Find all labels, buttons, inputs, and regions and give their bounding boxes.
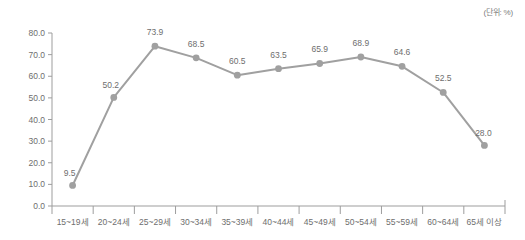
y-tick-label: 20.0 <box>28 158 45 168</box>
line-chart: 0.010.020.030.040.050.060.070.080.0 9.55… <box>0 0 525 240</box>
data-value-label: 28.0 <box>475 128 492 138</box>
data-point-marker <box>316 60 323 67</box>
y-tick-label: 30.0 <box>28 136 45 146</box>
x-category-label: 60~64세 <box>427 217 459 227</box>
data-value-label: 9.5 <box>64 168 76 178</box>
data-point-marker <box>110 94 117 101</box>
y-tick-label: 80.0 <box>28 28 45 38</box>
data-value-label: 52.5 <box>435 73 452 83</box>
x-category-label: 65세 이상 <box>466 217 502 227</box>
y-axis: 0.010.020.030.040.050.060.070.080.0 <box>28 28 52 211</box>
category-labels: 15~19세20~24세25~29세30~34세35~39세40~44세45~4… <box>57 217 503 227</box>
data-value-label: 68.9 <box>353 38 370 48</box>
x-category-label: 30~34세 <box>180 217 212 227</box>
x-category-label: 50~54세 <box>345 217 377 227</box>
x-category-label: 55~59세 <box>386 217 418 227</box>
data-point-marker <box>399 63 406 70</box>
data-point-marker <box>357 54 364 61</box>
x-category-label: 15~19세 <box>57 217 89 227</box>
data-value-labels: 9.550.273.968.560.563.565.968.964.652.52… <box>64 27 492 178</box>
y-tick-label: 40.0 <box>28 115 45 125</box>
data-value-label: 64.6 <box>394 47 411 57</box>
data-value-label: 68.5 <box>188 39 205 49</box>
x-category-label: 35~39세 <box>221 217 253 227</box>
data-point-marker <box>481 142 488 149</box>
data-markers <box>69 43 488 189</box>
data-point-marker <box>193 54 200 61</box>
y-tick-label: 70.0 <box>28 50 45 60</box>
data-value-label: 73.9 <box>147 27 164 37</box>
unit-note-label: (단위: %) <box>484 6 514 17</box>
data-point-marker <box>440 89 447 96</box>
data-point-marker <box>69 182 76 189</box>
data-point-marker <box>152 43 159 50</box>
y-tick-label: 60.0 <box>28 71 45 81</box>
y-tick-label: 0.0 <box>33 201 45 211</box>
x-category-label: 25~29세 <box>139 217 171 227</box>
x-axis <box>52 200 505 214</box>
data-value-label: 65.9 <box>311 44 328 54</box>
x-category-label: 45~49세 <box>304 217 336 227</box>
data-value-label: 60.5 <box>229 56 246 66</box>
chart-container: (단위: %) 0.010.020.030.040.050.060.070.08… <box>0 0 525 240</box>
y-tick-label: 10.0 <box>28 179 45 189</box>
x-category-label: 40~44세 <box>263 217 295 227</box>
x-category-label: 20~24세 <box>98 217 130 227</box>
data-value-label: 50.2 <box>102 80 119 90</box>
y-tick-label: 50.0 <box>28 93 45 103</box>
data-point-marker <box>275 65 282 72</box>
data-value-label: 63.5 <box>270 50 287 60</box>
data-point-marker <box>234 72 241 79</box>
